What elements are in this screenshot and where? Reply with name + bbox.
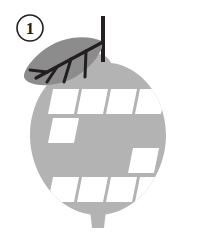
slot-r4-c3[interactable]: [106, 177, 137, 202]
slot-r1-c2[interactable]: [77, 89, 108, 114]
slot-row-2: [48, 118, 79, 143]
step-badge: 1: [17, 15, 43, 41]
bottom-nub: [90, 210, 106, 228]
leaf-vein-4: [30, 70, 47, 72]
badge-label: 1: [26, 19, 35, 38]
slot-r4-c1[interactable]: [48, 177, 79, 202]
slot-r4-c2[interactable]: [77, 177, 108, 202]
leaf-vein-1: [85, 51, 86, 77]
figure-panel: 1: [0, 0, 197, 249]
slot-r2-c1[interactable]: [48, 118, 79, 143]
slot-r3-c1[interactable]: [128, 148, 159, 173]
illustration-canvas: 1: [0, 0, 197, 249]
slot-r1-c4[interactable]: [135, 89, 166, 114]
slot-row-3: [128, 148, 159, 173]
slot-r1-c1[interactable]: [48, 89, 79, 114]
slot-r4-c4[interactable]: [135, 177, 166, 202]
slot-r1-c3[interactable]: [106, 89, 137, 114]
